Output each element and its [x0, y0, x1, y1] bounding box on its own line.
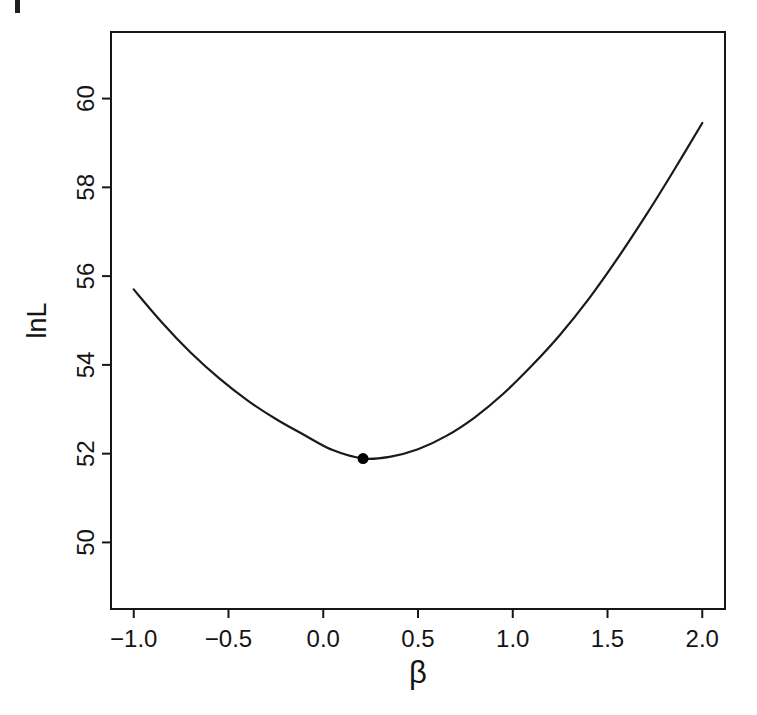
y-tick-label: 58 — [72, 174, 99, 201]
y-tick-label: 50 — [72, 529, 99, 556]
likelihood-line-chart: −1.0−0.50.00.51.01.52.0 505254565860 β l… — [0, 0, 757, 715]
x-tick-label: −0.5 — [205, 625, 252, 652]
y-tick-label: 54 — [72, 352, 99, 379]
plot-border — [111, 32, 725, 609]
y-axis-ticks: 505254565860 — [72, 85, 111, 556]
x-tick-label: 0.0 — [307, 625, 340, 652]
minimum-point-marker — [358, 453, 369, 464]
y-tick-label: 60 — [72, 85, 99, 112]
figure-page: −1.0−0.50.00.51.01.52.0 505254565860 β l… — [0, 0, 757, 715]
x-tick-label: 0.5 — [401, 625, 434, 652]
y-axis-label: lnL — [22, 302, 52, 338]
x-tick-label: 2.0 — [686, 625, 719, 652]
x-axis-ticks: −1.0−0.50.00.51.01.52.0 — [110, 609, 719, 652]
y-tick-label: 52 — [72, 440, 99, 467]
x-tick-label: −1.0 — [110, 625, 157, 652]
y-tick-label: 56 — [72, 263, 99, 290]
likelihood-curve — [134, 123, 703, 459]
x-tick-label: 1.5 — [591, 625, 624, 652]
x-axis-label: β — [409, 655, 427, 690]
x-tick-label: 1.0 — [496, 625, 529, 652]
curve-markers — [358, 453, 369, 464]
